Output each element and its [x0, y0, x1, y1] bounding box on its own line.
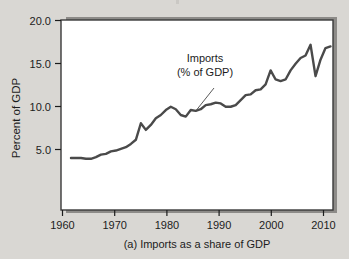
y-tick-label-20: 20.0	[30, 15, 51, 27]
figure-caption: (a) Imports as a share of GDP	[124, 238, 271, 250]
x-tick-label-1990: 1990	[207, 219, 231, 231]
x-tick-label-1960: 1960	[50, 219, 74, 231]
y-axis-title: Percent of GDP	[10, 77, 22, 158]
x-tick-label-1980: 1980	[155, 219, 179, 231]
top-bleed-mark	[176, 0, 179, 4]
x-tick-label-2010: 2010	[311, 219, 335, 231]
y-tick-label-15: 15.0	[30, 58, 51, 70]
annotation-label-line1: Imports	[187, 52, 224, 64]
annotation-label-line2: (% of GDP)	[177, 66, 233, 78]
imports-share-of-gdp-chart: 20.0 15.0 10.0 5.0 Percent of GDP 1960 1…	[0, 0, 349, 259]
plot-area-background	[61, 20, 333, 210]
figure-container: 20.0 15.0 10.0 5.0 Percent of GDP 1960 1…	[0, 0, 349, 259]
y-tick-label-5: 5.0	[36, 144, 51, 156]
y-tick-label-10: 10.0	[30, 101, 51, 113]
x-tick-label-1970: 1970	[102, 219, 126, 231]
x-tick-label-2000: 2000	[259, 219, 283, 231]
